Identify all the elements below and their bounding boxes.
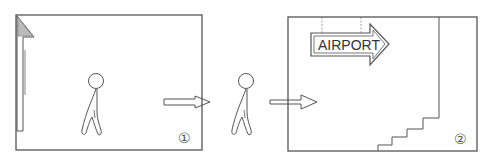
person-icon bbox=[82, 74, 104, 135]
comic-strip: ① AIRPORT ② bbox=[0, 0, 492, 164]
staircase-icon bbox=[378, 17, 439, 151]
airport-sign: AIRPORT bbox=[311, 24, 389, 65]
panel-2-number: ② bbox=[454, 131, 467, 147]
panel-1-frame bbox=[16, 15, 202, 150]
arrow-right-icon bbox=[164, 96, 210, 108]
panel-1: ① bbox=[16, 15, 210, 150]
sign-text: AIRPORT bbox=[318, 37, 380, 53]
panel-1-number: ① bbox=[178, 130, 191, 146]
arrow-right-icon bbox=[270, 95, 317, 109]
transition-person-icon bbox=[232, 74, 254, 135]
doorway-icon bbox=[17, 16, 34, 131]
panel-2: AIRPORT ② bbox=[288, 17, 477, 151]
